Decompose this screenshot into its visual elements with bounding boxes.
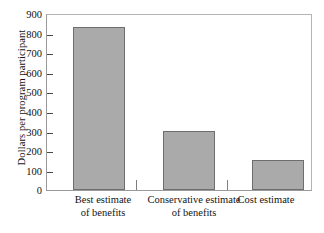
y-tick-label-900: 900 <box>16 10 42 20</box>
y-tick-mark-500 <box>47 93 53 94</box>
y-tick-mark-400 <box>47 113 53 114</box>
plot-inner <box>47 15 311 190</box>
x-category-label-line1: Best estimate <box>75 194 131 205</box>
plot-area <box>46 14 312 191</box>
bar-conservative-estimate-of-benefits <box>163 131 215 190</box>
x-category-separator-2 <box>227 180 228 190</box>
y-tick-label-0: 0 <box>16 186 42 196</box>
x-category-label-cost-estimate: Cost estimate <box>220 194 312 207</box>
y-tick-mark-800 <box>47 35 53 36</box>
y-tick-mark-100 <box>47 172 53 173</box>
y-tick-mark-300 <box>47 133 53 134</box>
x-category-label-line1: Cost estimate <box>238 194 295 205</box>
y-tick-label-100: 100 <box>16 167 42 177</box>
bar-chart-figure: Dollars per program participant 900 800 … <box>0 0 324 233</box>
y-tick-mark-200 <box>47 152 53 153</box>
y-tick-mark-700 <box>47 54 53 55</box>
bar-cost-estimate <box>252 160 304 190</box>
y-tick-mark-600 <box>47 74 53 75</box>
bar-best-estimate-of-benefits <box>73 27 125 190</box>
y-tick-label-500: 500 <box>16 88 42 98</box>
y-tick-label-600: 600 <box>16 69 42 79</box>
y-tick-label-200: 200 <box>16 147 42 157</box>
y-tick-label-800: 800 <box>16 30 42 40</box>
x-category-separator-1 <box>136 180 137 190</box>
y-tick-label-700: 700 <box>16 49 42 59</box>
y-tick-label-400: 400 <box>16 108 42 118</box>
y-tick-label-300: 300 <box>16 128 42 138</box>
x-category-label-line2: of benefits <box>128 207 260 220</box>
